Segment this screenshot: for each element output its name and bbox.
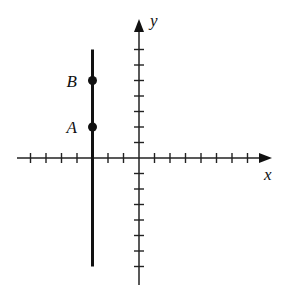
coordinate-plane: AB x y	[0, 0, 282, 293]
x-axis-arrow-icon	[259, 153, 272, 163]
y-axis-label: y	[148, 11, 158, 30]
point-b	[88, 76, 97, 85]
point-a	[88, 123, 97, 132]
point-label-a: A	[66, 118, 78, 137]
y-axis-arrow-icon	[134, 19, 144, 32]
x-axis	[17, 153, 272, 163]
point-label-b: B	[67, 72, 78, 91]
x-axis-label: x	[263, 165, 272, 184]
y-axis	[134, 19, 144, 285]
